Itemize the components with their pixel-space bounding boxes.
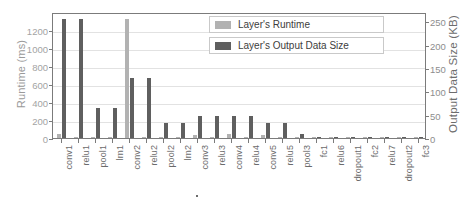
- y-axis-left-tick-label: 1000: [27, 44, 48, 55]
- bar-group[interactable]: [53, 14, 70, 138]
- x-axis-tick-label: dropout2: [404, 145, 414, 181]
- legend-item-label: Layer's Runtime: [238, 19, 310, 30]
- bar-datasize[interactable]: [62, 19, 66, 138]
- bar-datasize[interactable]: [368, 137, 372, 138]
- bar-runtime[interactable]: [125, 19, 129, 138]
- x-axis-tick-label: relu2: [149, 145, 159, 166]
- bar-runtime[interactable]: [176, 137, 180, 138]
- bar-group[interactable]: [138, 14, 155, 138]
- bar-runtime[interactable]: [414, 137, 418, 138]
- bar-group[interactable]: [172, 14, 189, 138]
- bar-datasize[interactable]: [113, 108, 117, 138]
- x-axis-tick-label: conv4: [234, 145, 244, 170]
- bar-runtime[interactable]: [91, 137, 95, 138]
- x-axis-tick-mark: [333, 139, 334, 143]
- bar-datasize[interactable]: [317, 137, 321, 138]
- annotation-dot-marker: [196, 195, 198, 197]
- x-axis-tick-label: relu4: [251, 145, 261, 166]
- bar-runtime[interactable]: [142, 137, 146, 138]
- bar-datasize[interactable]: [198, 116, 202, 138]
- x-axis-tick-mark: [418, 139, 419, 143]
- bar-runtime[interactable]: [329, 137, 333, 138]
- bar-datasize[interactable]: [181, 123, 185, 138]
- bar-runtime[interactable]: [227, 134, 231, 139]
- legend-item[interactable]: Layer's Output Data Size: [209, 37, 384, 54]
- bar-datasize[interactable]: [334, 137, 338, 138]
- bar-datasize[interactable]: [351, 137, 355, 138]
- x-axis-tick-mark: [163, 139, 164, 143]
- bar-group[interactable]: [104, 14, 121, 138]
- bar-datasize[interactable]: [402, 137, 406, 138]
- x-axis-tick-mark: [78, 139, 79, 143]
- y-axis-right-tick-label: 50: [430, 110, 441, 121]
- bar-datasize[interactable]: [300, 134, 304, 138]
- bar-runtime[interactable]: [57, 134, 61, 138]
- bar-runtime[interactable]: [261, 135, 265, 138]
- bar-runtime[interactable]: [210, 137, 214, 138]
- x-axis-tick-mark: [180, 139, 181, 143]
- x-axis-tick-mark: [112, 139, 113, 143]
- y-axis-left-tick-label: 1200: [27, 26, 48, 37]
- chart-legend: Layer's RuntimeLayer's Output Data Size: [209, 16, 384, 58]
- bar-datasize[interactable]: [96, 108, 100, 138]
- bar-datasize[interactable]: [385, 137, 389, 138]
- legend-item[interactable]: Layer's Runtime: [209, 16, 384, 33]
- x-axis-tick-label: lrn1: [115, 145, 125, 160]
- x-axis-tick-label: pool1: [98, 145, 108, 168]
- x-axis-tick-mark: [265, 139, 266, 143]
- x-axis-tick-label: relu3: [217, 145, 227, 166]
- bar-runtime[interactable]: [244, 137, 248, 138]
- bar-group[interactable]: [70, 14, 87, 138]
- x-axis-tick-mark: [95, 139, 96, 143]
- bar-datasize[interactable]: [164, 123, 168, 138]
- x-axis-tick-label: conv5: [268, 145, 278, 170]
- bar-runtime[interactable]: [346, 137, 350, 138]
- bar-runtime[interactable]: [193, 135, 197, 138]
- bar-group[interactable]: [121, 14, 138, 138]
- bar-group[interactable]: [189, 14, 206, 138]
- x-axis-tick-mark: [248, 139, 249, 143]
- bar-runtime[interactable]: [380, 137, 384, 138]
- bar-datasize[interactable]: [249, 116, 253, 138]
- y-axis-left-tick-label: 600: [32, 80, 48, 91]
- x-axis-tick-label: fc1: [319, 145, 329, 157]
- y-axis-right-tick-label: 150: [430, 64, 446, 75]
- bar-datasize[interactable]: [79, 19, 83, 138]
- y-axis-right-tick-label: 0: [430, 134, 435, 145]
- x-axis-tick-label: relu5: [285, 145, 295, 166]
- bar-runtime[interactable]: [159, 137, 163, 138]
- y-axis-left-tick-label: 400: [32, 98, 48, 109]
- y-axis-left-tick-labels: 020040060080010001200: [14, 13, 48, 139]
- x-axis-tick-label: lrn2: [183, 145, 193, 160]
- bar-runtime[interactable]: [278, 137, 282, 138]
- y-axis-right-tick-labels: 050100150200250: [430, 13, 460, 139]
- x-axis-tick-label: pool2: [166, 145, 176, 168]
- bar-runtime[interactable]: [363, 137, 367, 138]
- bar-datasize[interactable]: [130, 78, 134, 138]
- bar-runtime[interactable]: [108, 137, 112, 138]
- bar-runtime[interactable]: [295, 137, 299, 138]
- x-axis-tick-mark: [146, 139, 147, 143]
- x-axis-tick-mark: [367, 139, 368, 143]
- x-axis-tick-mark: [299, 139, 300, 143]
- x-axis-tick-mark: [231, 139, 232, 143]
- bar-datasize[interactable]: [232, 116, 236, 138]
- legend-swatch-icon: [215, 42, 231, 50]
- bar-group[interactable]: [393, 14, 410, 138]
- bar-group[interactable]: [410, 14, 427, 138]
- bar-group[interactable]: [155, 14, 172, 138]
- x-axis-tick-label: relu6: [336, 145, 346, 166]
- bar-datasize[interactable]: [215, 116, 219, 138]
- x-axis-tick-label: conv1: [64, 145, 74, 170]
- bar-runtime[interactable]: [312, 137, 316, 138]
- x-axis-tick-mark: [129, 139, 130, 143]
- bar-datasize[interactable]: [147, 78, 151, 138]
- x-axis-tick-mark: [401, 139, 402, 143]
- bar-runtime[interactable]: [397, 137, 401, 138]
- bar-datasize[interactable]: [283, 123, 287, 138]
- bar-group[interactable]: [87, 14, 104, 138]
- bar-runtime[interactable]: [74, 137, 78, 138]
- bar-datasize[interactable]: [419, 137, 423, 138]
- bar-datasize[interactable]: [266, 123, 270, 138]
- x-axis-tick-label: conv3: [200, 145, 210, 170]
